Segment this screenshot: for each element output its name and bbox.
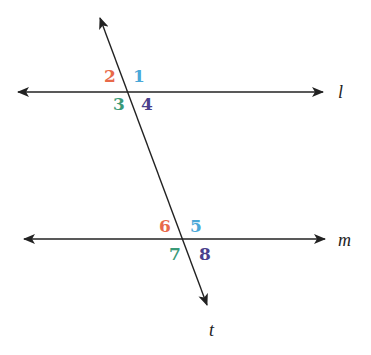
angle-labels-group: 12345678 — [104, 66, 211, 264]
angle-label-3: 3 — [113, 94, 125, 114]
line-t — [100, 18, 207, 305]
angle-label-5: 5 — [190, 216, 202, 236]
line-label-t: t — [209, 320, 215, 340]
angle-label-7: 7 — [169, 244, 181, 264]
angle-label-8: 8 — [199, 244, 211, 264]
angle-label-2: 2 — [104, 66, 116, 86]
line-label-l: l — [338, 82, 343, 102]
transversal-diagram: 12345678 lmt — [0, 0, 371, 355]
line-labels-group: lmt — [209, 82, 351, 340]
line-label-m: m — [338, 230, 351, 250]
angle-label-4: 4 — [141, 94, 153, 114]
angle-label-1: 1 — [133, 66, 145, 86]
angle-label-6: 6 — [159, 216, 171, 236]
